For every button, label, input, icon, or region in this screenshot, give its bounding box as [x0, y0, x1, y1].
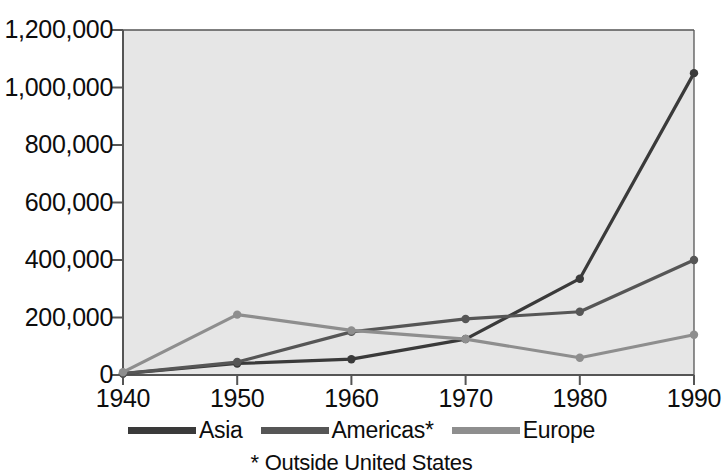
data-point [576, 308, 584, 316]
x-tick-label: 1990 [667, 386, 721, 411]
x-axis-tick-labels: 194019501960197019801990 [0, 378, 723, 412]
y-tick-label: 1,000,000 [4, 75, 113, 100]
x-tick-label: 1950 [210, 386, 264, 411]
y-tick-label: 800,000 [25, 132, 113, 157]
data-point [576, 274, 584, 282]
y-tick-label: 200,000 [25, 305, 113, 330]
data-point [233, 358, 241, 366]
data-point [461, 315, 469, 323]
y-tick-label: 400,000 [25, 247, 113, 272]
chart-legend: AsiaAmericas*Europe [0, 415, 723, 445]
data-point [690, 69, 698, 77]
legend-label: Europe [523, 419, 595, 442]
x-tick-label: 1980 [553, 386, 607, 411]
data-point [690, 331, 698, 339]
line-chart: 0200,000400,000600,000800,0001,000,0001,… [0, 0, 723, 476]
plot-background [123, 30, 694, 375]
y-axis-tick-labels: 0200,000400,000600,000800,0001,000,0001,… [0, 0, 113, 400]
y-tick-label: 600,000 [25, 190, 113, 215]
legend-swatch-icon [261, 427, 329, 434]
y-tick-label: 1,200,000 [4, 17, 113, 42]
legend-item-asia[interactable]: Asia [128, 419, 243, 442]
legend-swatch-icon [128, 427, 196, 434]
legend-label: Americas* [332, 419, 434, 442]
legend-label: Asia [199, 419, 243, 442]
x-tick-label: 1970 [438, 386, 492, 411]
x-tick-label: 1940 [96, 386, 150, 411]
data-point [690, 256, 698, 264]
data-point [347, 355, 355, 363]
legend-swatch-icon [452, 427, 520, 434]
x-tick-label: 1960 [324, 386, 378, 411]
chart-footnote: * Outside United States [0, 452, 723, 474]
data-point [233, 310, 241, 318]
data-point [347, 326, 355, 334]
data-point [119, 368, 127, 376]
legend-item-europe[interactable]: Europe [452, 419, 595, 442]
data-point [576, 354, 584, 362]
legend-item-americas[interactable]: Americas* [261, 419, 434, 442]
data-point [461, 335, 469, 343]
